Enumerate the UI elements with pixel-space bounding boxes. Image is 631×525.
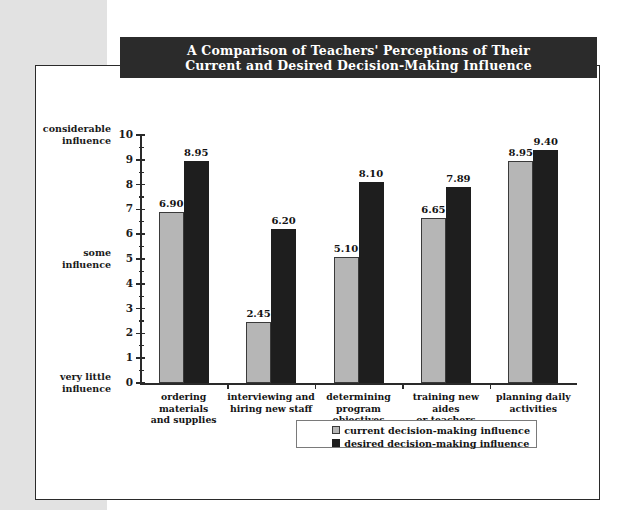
category-label-line: interviewing and — [223, 391, 319, 403]
bar-value-label: 8.10 — [348, 168, 394, 179]
y-tick-label: 6 — [113, 227, 133, 239]
bar-desired — [533, 150, 558, 383]
y-tick-label: 4 — [113, 277, 133, 289]
bar-current — [246, 322, 271, 383]
y-axis-annotation: very littleinfluence — [33, 371, 111, 395]
category-label-line: hiring new staff — [223, 403, 319, 415]
y-tick-major — [136, 209, 145, 211]
bar-current — [421, 218, 446, 383]
bar-value-label: 7.89 — [435, 173, 481, 184]
bar-desired — [359, 182, 384, 383]
y-tick-major — [136, 333, 145, 335]
x-tick — [490, 383, 492, 389]
y-axis-annotation: someinfluence — [33, 247, 111, 271]
y-tick-major — [136, 283, 145, 285]
bar-current — [508, 161, 533, 383]
category-label: planning dailyactivities — [485, 391, 581, 414]
bar-value-label: 9.40 — [523, 136, 569, 147]
legend-label: desired decision-making influence — [344, 438, 529, 449]
y-tick-minor — [139, 296, 144, 297]
annotation-line: considerable — [33, 123, 111, 135]
bar-desired — [446, 187, 471, 383]
y-tick-minor — [139, 172, 144, 173]
x-tick — [402, 383, 404, 389]
y-tick-minor — [139, 196, 144, 197]
y-tick-major — [136, 382, 145, 384]
annotation-line: very little — [33, 371, 111, 383]
x-tick — [315, 383, 317, 389]
bar-chart: 012345678910 considerableinfluencesomein… — [35, 65, 600, 500]
category-label-line: ordering materials — [136, 391, 232, 414]
y-tick-major — [136, 184, 145, 186]
page-canvas: A Comparison of Teachers' Perceptions of… — [0, 0, 631, 525]
y-tick-label: 7 — [113, 202, 133, 214]
y-tick-minor — [139, 221, 144, 222]
y-tick-label: 0 — [113, 376, 133, 388]
y-tick-label: 2 — [113, 326, 133, 338]
chart-legend: current decision-making influencedesired… — [296, 420, 537, 448]
legend-swatch-desired — [332, 439, 340, 447]
category-label: interviewing andhiring new staff — [223, 391, 319, 414]
y-tick-label: 5 — [113, 252, 133, 264]
legend-item: current decision-making influence — [332, 424, 530, 436]
x-tick — [227, 383, 229, 389]
category-label-line: activities — [485, 403, 581, 415]
legend-rows: current decision-making influencedesired… — [332, 423, 530, 449]
x-axis-line — [140, 383, 577, 385]
y-tick-major — [136, 357, 145, 359]
legend-label: current decision-making influence — [344, 425, 530, 436]
bar-current — [159, 212, 184, 383]
y-tick-label: 10 — [113, 128, 133, 140]
y-tick-label: 3 — [113, 302, 133, 314]
y-tick-minor — [139, 320, 144, 321]
y-tick-major — [136, 159, 145, 161]
bar-value-label: 8.95 — [173, 147, 219, 158]
y-tick-label: 8 — [113, 178, 133, 190]
y-tick-minor — [139, 370, 144, 371]
annotation-line: influence — [33, 259, 111, 271]
legend-item: desired decision-making influence — [332, 437, 530, 449]
annotation-line: some — [33, 247, 111, 259]
y-tick-major — [136, 134, 145, 136]
bar-current — [334, 257, 359, 383]
category-label-line: planning daily — [485, 391, 581, 403]
category-label-line: training new aides — [398, 391, 494, 414]
legend-swatch-current — [332, 426, 340, 434]
y-tick-major — [136, 308, 145, 310]
y-tick-minor — [139, 147, 144, 148]
category-label: ordering materialsand supplies — [136, 391, 232, 426]
y-tick-minor — [139, 246, 144, 247]
category-label-line: determining program — [311, 391, 407, 414]
y-tick-label: 9 — [113, 153, 133, 165]
bar-desired — [271, 229, 296, 383]
y-tick-minor — [139, 345, 144, 346]
bar-desired — [184, 161, 209, 383]
y-tick-major — [136, 258, 145, 260]
y-tick-label: 1 — [113, 351, 133, 363]
category-label-line: and supplies — [136, 414, 232, 426]
annotation-line: influence — [33, 383, 111, 395]
y-tick-major — [136, 233, 145, 235]
y-tick-minor — [139, 271, 144, 272]
chart-title-line-1: A Comparison of Teachers' Perceptions of… — [185, 43, 532, 58]
annotation-line: influence — [33, 135, 111, 147]
bar-value-label: 6.20 — [261, 215, 307, 226]
y-axis-annotation: considerableinfluence — [33, 123, 111, 147]
